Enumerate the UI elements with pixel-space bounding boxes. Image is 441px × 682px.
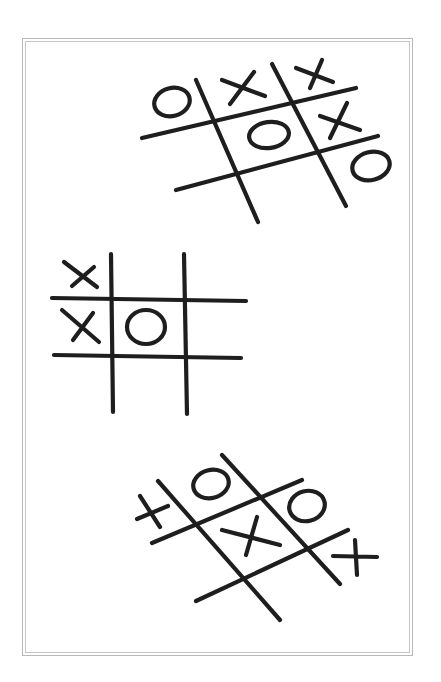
grid-line	[184, 254, 187, 414]
grid-line	[158, 481, 280, 620]
x-mark	[64, 262, 97, 287]
o-mark	[286, 487, 329, 525]
board-top	[142, 60, 393, 222]
x-mark	[137, 496, 168, 527]
grid-line	[196, 80, 258, 222]
board-bottom	[137, 455, 377, 620]
x-mark	[333, 540, 377, 575]
grid-line	[222, 455, 340, 584]
grid-line	[111, 254, 113, 412]
tic-tac-toe-drawing	[0, 0, 441, 682]
grid-line	[54, 355, 241, 358]
x-mark	[320, 103, 360, 138]
x-mark	[62, 310, 99, 342]
board-middle	[52, 254, 246, 414]
o-mark	[151, 84, 193, 120]
x-mark	[296, 60, 333, 88]
x-mark	[222, 517, 280, 555]
o-mark	[190, 466, 232, 502]
o-mark	[127, 310, 165, 344]
x-mark	[222, 72, 265, 104]
grid-line	[176, 136, 378, 190]
grid-line	[52, 298, 246, 301]
o-mark	[247, 119, 290, 150]
o-mark	[349, 148, 393, 185]
